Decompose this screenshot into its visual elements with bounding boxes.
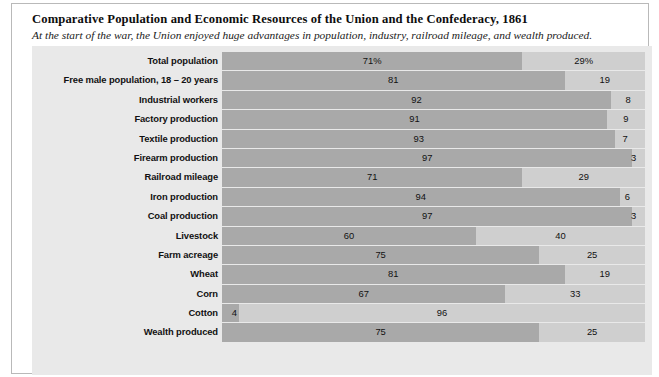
chart-row-label: Total population (147, 55, 218, 66)
chart-row-label: Industrial workers (139, 94, 218, 105)
stacked-bar: 496 (222, 304, 645, 322)
chart-row-label: Free male population, 18 – 20 years (64, 74, 218, 85)
bar-value-confederacy: 7 (623, 133, 628, 144)
chart-row-label: Livestock (176, 230, 218, 241)
bar-value-union: 67 (358, 288, 368, 299)
bar-value-union: 71% (363, 55, 382, 66)
stacked-bar: 7525 (222, 323, 645, 341)
chart-row: Firearm production973 (32, 149, 652, 167)
bar-value-confederacy: 8 (625, 94, 630, 105)
bar-value-confederacy: 33 (570, 288, 580, 299)
bar-value-union: 97 (422, 210, 432, 221)
bar-value-union: 91 (409, 113, 419, 124)
chart-row-label: Wealth produced (144, 326, 218, 337)
stacked-bar: 6040 (222, 227, 645, 245)
chart-row: Wealth produced7525 (32, 323, 652, 341)
bar-value-union: 75 (375, 326, 385, 337)
chart-row: Iron production946 (32, 188, 652, 206)
bar-value-confederacy: 9 (623, 113, 628, 124)
stacked-bar: 937 (222, 130, 645, 148)
chart-row: Farm acreage7525 (32, 246, 652, 264)
stacked-bar: 919 (222, 110, 645, 128)
chart-row-label: Corn (197, 288, 218, 299)
stacked-bar: 7129 (222, 168, 645, 186)
chart-row: Factory production919 (32, 110, 652, 128)
chart-row: Livestock6040 (32, 227, 652, 245)
chart-row: Total population71%29% (32, 52, 652, 70)
bar-value-confederacy: 19 (600, 268, 610, 279)
stacked-bar: 946 (222, 188, 645, 206)
bar-value-union: 60 (344, 230, 354, 241)
stacked-bar: 928 (222, 91, 645, 109)
bar-value-confederacy: 3 (631, 152, 636, 163)
chart-row-label: Cotton (188, 307, 218, 318)
bar-value-union: 75 (375, 249, 385, 260)
stacked-bar: 8119 (222, 265, 645, 283)
stacked-bar: 71%29% (222, 52, 645, 70)
chart-row-label: Iron production (150, 191, 218, 202)
chart-row-label: Textile production (139, 133, 218, 144)
bar-value-confederacy: 29% (574, 55, 593, 66)
bar-value-confederacy: 25 (587, 326, 597, 337)
chart-row-label: Farm acreage (158, 249, 218, 260)
bar-value-union: 71 (367, 171, 377, 182)
chart-row: Textile production937 (32, 130, 652, 148)
bar-value-confederacy: 29 (578, 171, 588, 182)
bar-value-confederacy: 40 (555, 230, 565, 241)
chart-row: Industrial workers928 (32, 91, 652, 109)
chart-row-label: Wheat (190, 268, 218, 279)
chart-row-label: Railroad mileage (145, 171, 218, 182)
stacked-bar: 8119 (222, 71, 645, 89)
figure-subtitle: At the start of the war, the Union enjoy… (32, 29, 650, 41)
bar-rows: Total population71%29%Free male populati… (32, 52, 652, 343)
figure-root: Comparative Population and Economic Reso… (0, 0, 659, 377)
bar-value-union: 81 (388, 74, 398, 85)
chart-row: Cotton496 (32, 304, 652, 322)
chart-row-label: Firearm production (134, 152, 218, 163)
stacked-bar: 973 (222, 149, 645, 167)
figure-frame: Comparative Population and Economic Reso… (11, 3, 649, 374)
bar-value-confederacy: 25 (587, 249, 597, 260)
bar-value-union: 81 (388, 268, 398, 279)
bar-value-confederacy: 96 (437, 307, 447, 318)
stacked-bar: 7525 (222, 246, 645, 264)
chart-row: Wheat8119 (32, 265, 652, 283)
chart-row-label: Coal production (148, 210, 218, 221)
bar-value-confederacy: 6 (625, 191, 630, 202)
chart-row: Free male population, 18 – 20 years8119 (32, 71, 652, 89)
chart-row: Coal production973 (32, 207, 652, 225)
bar-value-union: 97 (422, 152, 432, 163)
chart-row: Corn6733 (32, 285, 652, 303)
page-title: Comparative Population and Economic Reso… (32, 12, 644, 27)
bar-value-union: 4 (232, 307, 237, 318)
chart-row: Railroad mileage7129 (32, 168, 652, 186)
bar-value-confederacy: 19 (600, 74, 610, 85)
bar-value-union: 93 (413, 133, 423, 144)
bar-value-union: 92 (411, 94, 421, 105)
chart-panel: Total population71%29%Free male populati… (32, 46, 652, 375)
bar-value-union: 94 (416, 191, 426, 202)
bar-value-confederacy: 3 (631, 210, 636, 221)
chart-row-label: Factory production (134, 113, 218, 124)
stacked-bar: 6733 (222, 285, 645, 303)
stacked-bar: 973 (222, 207, 645, 225)
